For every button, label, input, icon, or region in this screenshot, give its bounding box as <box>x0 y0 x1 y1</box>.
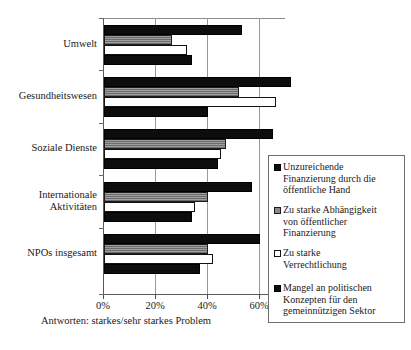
y-axis-tick <box>99 70 104 71</box>
category-label-line: Internationale <box>39 189 97 201</box>
bar-3-1 <box>104 129 273 139</box>
legend-entry-1[interactable]: Unzureichende Finanzierung durch die öff… <box>274 161 402 196</box>
bar-3-4 <box>104 159 218 169</box>
bar-5-1 <box>104 234 260 244</box>
chart-note: Antworten: starkes/sehr starkes Problem <box>41 315 211 326</box>
bar-4-4 <box>104 212 192 222</box>
black-square-icon <box>274 164 281 171</box>
legend-entry-2[interactable]: Zu starke Abhängigkeit von öffentlicher … <box>274 204 402 239</box>
category-label-3: Soziale Dienste <box>31 142 97 154</box>
bar-2-4 <box>104 107 208 117</box>
plot-bottom-axis <box>103 294 285 295</box>
bar-1-1 <box>104 25 242 35</box>
bar-3-3 <box>104 149 221 159</box>
category-label-4: InternationaleAktivitäten <box>39 189 97 213</box>
bar-4-3 <box>104 202 195 212</box>
bar-1-4 <box>104 55 192 65</box>
bar-4-2 <box>104 192 208 202</box>
bar-1-3 <box>104 45 187 55</box>
x-axis-tick-label: 40% <box>187 300 227 311</box>
x-axis-tick <box>155 294 156 299</box>
category-label-line: NPOs insgesamt <box>27 247 97 259</box>
legend-label: Zu starke Abhängigkeit von öffentlicher … <box>283 204 377 239</box>
y-axis-tick <box>99 18 104 19</box>
x-axis-tick-label: 0% <box>83 300 123 311</box>
gridline <box>259 18 260 294</box>
legend-label: Mangel an politischen Konzepten für den … <box>283 282 375 317</box>
y-axis-tick <box>99 175 104 176</box>
bar-2-3 <box>104 97 276 107</box>
bar-5-4 <box>104 264 200 274</box>
chart-screenshot: 0%20%40%60% UmweltGesundheitswesenSozial… <box>0 0 411 350</box>
category-label-5: NPOs insgesamt <box>27 247 97 259</box>
category-label-line: Soziale Dienste <box>31 142 97 154</box>
y-axis-tick <box>99 228 104 229</box>
x-axis-tick <box>259 294 260 299</box>
bar-3-2 <box>104 139 226 149</box>
bar-2-2 <box>104 87 239 97</box>
white-square-icon <box>274 250 281 257</box>
legend: Unzureichende Finanzierung durch die öff… <box>268 155 405 323</box>
category-label-line: Aktivitäten <box>39 201 97 213</box>
gray-square-icon <box>274 207 281 214</box>
bar-1-2 <box>104 35 172 45</box>
x-axis-tick-label: 20% <box>135 300 175 311</box>
bar-4-1 <box>104 182 252 192</box>
x-axis-tick <box>207 294 208 299</box>
black-square-icon <box>274 285 281 292</box>
y-axis-tick <box>99 123 104 124</box>
bar-2-1 <box>104 77 291 87</box>
page-text-fragment <box>4 341 304 349</box>
category-label-line: Umwelt <box>63 38 97 50</box>
category-label-line: Gesundheitswesen <box>19 90 97 102</box>
legend-entry-4[interactable]: Mangel an politischen Konzepten für den … <box>274 282 402 317</box>
legend-label: Unzureichende Finanzierung durch die öff… <box>283 161 376 196</box>
bar-5-2 <box>104 244 208 254</box>
bar-5-3 <box>104 254 213 264</box>
legend-entry-3[interactable]: Zu starke Verrechtlichung <box>274 247 402 270</box>
category-label-1: Umwelt <box>63 38 97 50</box>
category-label-2: Gesundheitswesen <box>19 90 97 102</box>
legend-label: Zu starke Verrechtlichung <box>283 247 347 270</box>
y-axis-tick <box>99 294 104 295</box>
